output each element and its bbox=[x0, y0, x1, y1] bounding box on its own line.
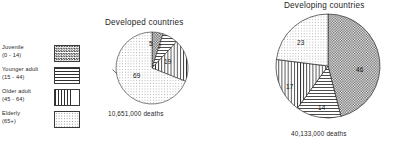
pie-value-developed-juvenile: 5 bbox=[149, 40, 153, 47]
legend-swatch-vertical-lines-icon bbox=[54, 89, 80, 106]
pie-title-developed: Developed countries bbox=[105, 18, 183, 27]
legend-item-younger-adult-label: Younger adult (15 - 44) bbox=[2, 66, 50, 81]
pie-value-developing-older-adult: 17 bbox=[286, 83, 294, 90]
pie-chart-developing-countries: Developing countries bbox=[258, 0, 406, 142]
legend-item-older-adult-range: (45 - 64) bbox=[2, 96, 50, 104]
pie-chart-developed-countries: Developed countries bbox=[100, 18, 205, 128]
pie-value-developing-juvenile: 46 bbox=[356, 66, 364, 73]
legend-swatch-dots-icon bbox=[54, 111, 80, 128]
legend-item-juvenile-range: (0 - 14) bbox=[2, 52, 50, 60]
legend-swatch-horizontal-lines-icon bbox=[54, 67, 80, 84]
pie-caption-developing: 40,133,000 deaths bbox=[291, 130, 347, 137]
legend-item-elderly-range: (65+) bbox=[2, 118, 50, 126]
legend-item-older-adult-name: Older adult bbox=[2, 88, 31, 94]
pie-value-developed-elderly: 69 bbox=[133, 72, 141, 79]
pie-title-developing: Developing countries bbox=[284, 1, 364, 10]
legend-item-juvenile-label: Juvenile (0 - 14) bbox=[2, 44, 50, 59]
legend-item-juvenile-name: Juvenile bbox=[2, 44, 24, 50]
pie-value-developed-younger-adult: 7 bbox=[158, 43, 162, 50]
legend-item-elderly-name: Elderly bbox=[2, 110, 20, 116]
legend: Juvenile (0 - 14) Younger adult (15 - 44… bbox=[2, 44, 82, 132]
legend-item-older-adult-label: Older adult (45 - 64) bbox=[2, 88, 50, 103]
pie-svg-developing bbox=[258, 12, 406, 128]
pie-value-developing-elderly: 23 bbox=[297, 39, 305, 46]
legend-item-younger-adult: Younger adult (15 - 44) bbox=[2, 66, 82, 88]
legend-item-elderly: Elderly (65+) bbox=[2, 110, 82, 132]
legend-swatch-checkerboard-icon bbox=[54, 45, 80, 62]
legend-item-younger-adult-range: (15 - 44) bbox=[2, 74, 50, 82]
pie-value-developing-younger-adult: 14 bbox=[318, 104, 326, 111]
legend-item-older-adult: Older adult (45 - 64) bbox=[2, 88, 82, 110]
legend-item-juvenile: Juvenile (0 - 14) bbox=[2, 44, 82, 66]
legend-item-elderly-label: Elderly (65+) bbox=[2, 110, 50, 125]
legend-item-younger-adult-name: Younger adult bbox=[2, 66, 38, 72]
pie-caption-developed: 10,651,000 deaths bbox=[108, 110, 164, 117]
figure-root: Juvenile (0 - 14) Younger adult (15 - 44… bbox=[0, 0, 406, 142]
pie-value-developed-older-adult: 19 bbox=[164, 58, 172, 65]
